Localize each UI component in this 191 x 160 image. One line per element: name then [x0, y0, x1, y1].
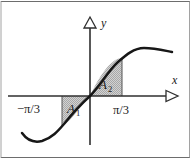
figure-frame — [1, 1, 190, 158]
region-a2-subscript: 2 — [108, 84, 112, 94]
x-tick-label-right: π/3 — [113, 103, 129, 117]
region-a2-name: A — [98, 77, 107, 92]
y-axis-label: y — [100, 16, 107, 30]
figure-container: −π/3 π/3 y x A 1 A 2 — [0, 0, 191, 160]
x-axis-label: x — [171, 73, 178, 87]
y-axis — [84, 17, 96, 145]
region-a1-name: A — [66, 101, 75, 116]
sine-curve-figure: −π/3 π/3 y x A 1 A 2 — [0, 0, 191, 160]
region-a1-subscript: 1 — [76, 108, 80, 118]
y-axis-arrowhead — [84, 17, 96, 28]
x-axis-arrowhead — [166, 91, 178, 102]
x-tick-label-left: −π/3 — [17, 102, 40, 116]
